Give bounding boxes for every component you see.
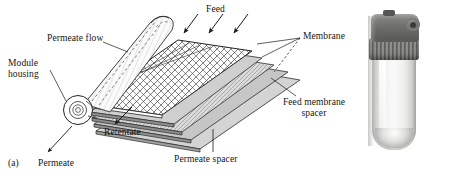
- figure-root: Feed Permeate flow Module housing Retent…: [0, 0, 449, 176]
- label-module-housing: Module housing: [8, 58, 54, 79]
- housing-port-hole-icon: [410, 22, 416, 28]
- module-line-drawing: [0, 0, 340, 176]
- label-module-housing-line2: housing: [8, 69, 54, 80]
- label-retentate: Retentate: [104, 127, 141, 138]
- panel-a-diagram: Feed Permeate flow Module housing Retent…: [0, 0, 340, 176]
- permeate-arrow: [48, 126, 72, 152]
- panel-tag-a: (a): [8, 158, 19, 168]
- feed-arrows: [184, 14, 248, 33]
- housing-cap-notch: [383, 10, 395, 16]
- label-module-housing-line1: Module: [8, 58, 54, 69]
- label-permeate: Permeate: [38, 158, 74, 169]
- filter-housing: [362, 8, 426, 150]
- label-feed: Feed: [206, 4, 225, 15]
- label-permeate-spacer: Permeate spacer: [174, 154, 237, 165]
- panel-b-photo: (b): [340, 0, 449, 176]
- label-permeate-flow: Permeate flow: [47, 33, 103, 44]
- label-membrane: Membrane: [303, 31, 345, 42]
